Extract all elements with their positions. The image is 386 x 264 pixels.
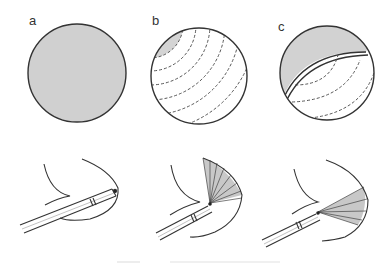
panel-a-view — [28, 24, 126, 122]
figure-canvas — [0, 0, 386, 264]
figure-caption — [115, 256, 290, 264]
panel-c-view — [270, 20, 380, 120]
endoscope-diagram-b — [156, 158, 242, 240]
endoscope-diagram-c — [262, 160, 368, 247]
endoscope-diagram-a — [20, 159, 118, 233]
